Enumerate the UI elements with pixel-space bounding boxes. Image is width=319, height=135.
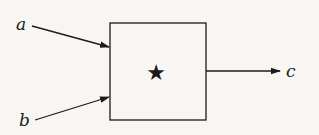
input-b-arrow <box>35 97 109 120</box>
output-c-label: c <box>286 61 296 81</box>
input-a-arrow <box>32 26 109 47</box>
star-icon: ★ <box>146 60 166 85</box>
block-diagram: ★ a b c <box>0 0 319 135</box>
diagram-canvas: ★ a b c <box>0 0 319 135</box>
input-b-label: b <box>19 110 30 130</box>
input-a-label: a <box>16 14 26 34</box>
